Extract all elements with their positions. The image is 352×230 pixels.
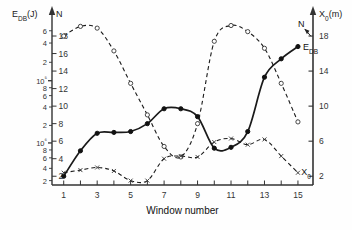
x-tick-label: 5: [128, 190, 133, 200]
y-right-tick-label: 10: [319, 101, 329, 111]
data-point-e_db: [262, 75, 266, 79]
data-point-e_db: [179, 107, 183, 111]
data-point-e_db: [279, 57, 283, 61]
x-tick-label: 15: [293, 190, 303, 200]
data-point-n: [145, 113, 149, 117]
y-left-log-tick-label: 2: [43, 58, 47, 67]
y-left-log-tick-label: 6: [43, 27, 47, 36]
y-left-log-tick-label: 2: [43, 121, 47, 130]
data-point-n: [279, 81, 283, 85]
data-point-e_db: [129, 129, 133, 133]
data-point-e_db: [78, 149, 82, 153]
y-right-tick-label: 2: [319, 171, 324, 181]
x-tick-label: 7: [162, 190, 167, 200]
y-axis-right-title: X0(m): [319, 9, 342, 22]
data-point-e_db: [212, 146, 216, 150]
data-point-n: [246, 30, 250, 34]
data-point-n: [212, 39, 216, 43]
data-point-e_db: [145, 122, 149, 126]
data-point-n: [62, 34, 66, 38]
curve-label-n: N: [298, 19, 305, 29]
data-point-n: [229, 23, 233, 27]
figure-container: 13579111315Window number2468101214161864…: [0, 0, 352, 230]
y-left-tick-label: 12: [59, 84, 69, 94]
data-point-n: [129, 81, 133, 85]
x-axis-title: Window number: [146, 205, 219, 216]
data-point-x0: [212, 140, 216, 144]
curve-label-x: X0: [301, 167, 311, 180]
y-left-log-tick-label: 6: [43, 92, 47, 101]
x-tick-label: 11: [227, 190, 236, 200]
x-tick-label: 9: [195, 190, 200, 200]
y-left-tick-label: 8: [59, 119, 64, 129]
data-point-x0: [262, 137, 266, 141]
data-point-n: [195, 122, 199, 126]
y-left-tick-label: 14: [59, 66, 69, 76]
y-left-log-tick-label: 4: [43, 103, 47, 112]
y-left-log-tick-label: 4: [43, 164, 47, 173]
data-point-e_db: [229, 145, 233, 149]
y-left-log-tick-label: 6: [43, 154, 47, 163]
y-left-tick-label: 6: [59, 136, 64, 146]
x-tick-label: 1: [61, 190, 66, 200]
y-axis-right-arrow: [310, 6, 316, 15]
data-point-x0: [296, 171, 300, 175]
chart-canvas: 13579111315Window number2468101214161864…: [0, 0, 352, 230]
y-axis-left-secondary-title: N: [56, 9, 63, 19]
x-tick-label: 3: [95, 190, 100, 200]
data-point-e_db: [112, 130, 116, 134]
curve-label-edb: EDB: [303, 42, 318, 55]
y-axis-left-title: EDB(J): [12, 9, 38, 22]
x-tick-label: 13: [260, 190, 270, 200]
data-point-n: [78, 24, 82, 28]
data-point-n: [112, 49, 116, 53]
y-right-tick-label: 14: [319, 66, 329, 76]
y-right-tick-label: 18: [319, 31, 329, 41]
y-right-tick-label: 6: [319, 136, 324, 146]
data-point-e_db: [95, 131, 99, 135]
data-point-n: [162, 144, 166, 148]
y-left-tick-label: 16: [59, 49, 69, 59]
data-point-n: [95, 26, 99, 30]
data-point-x0: [162, 157, 166, 161]
y-left-tick-label: 4: [59, 154, 64, 164]
y-left-tick-label: 10: [59, 101, 69, 111]
data-point-x0: [279, 154, 283, 158]
y-axis-left-arrow: [49, 6, 55, 15]
data-point-n: [296, 120, 300, 124]
data-point-n: [262, 46, 266, 50]
data-point-e_db: [246, 129, 250, 133]
y-left-log-tick-label: 4: [43, 39, 47, 48]
data-point-e_db: [296, 44, 300, 48]
series-line-x0: [64, 138, 298, 182]
y-left-log-tick-label: 2: [43, 177, 47, 186]
data-point-e_db: [162, 107, 166, 111]
